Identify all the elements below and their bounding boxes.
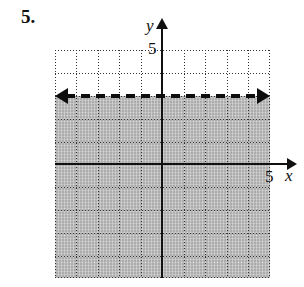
graph-figure: 5. y x 5 5: [0, 0, 304, 287]
problem-number: 5.: [21, 7, 35, 26]
boundary-dashed-line: [66, 94, 260, 98]
y-axis: [161, 28, 163, 278]
x-axis: [55, 163, 289, 165]
x-axis-label: x: [285, 167, 293, 184]
y-axis-arrow-icon: [156, 18, 168, 29]
y-axis-label: y: [146, 17, 154, 34]
boundary-arrow-right-icon: [257, 88, 270, 104]
y-axis-tick-label-5: 5: [148, 40, 157, 57]
boundary-arrow-left-icon: [55, 88, 68, 104]
x-axis-tick-label-5: 5: [265, 168, 274, 185]
